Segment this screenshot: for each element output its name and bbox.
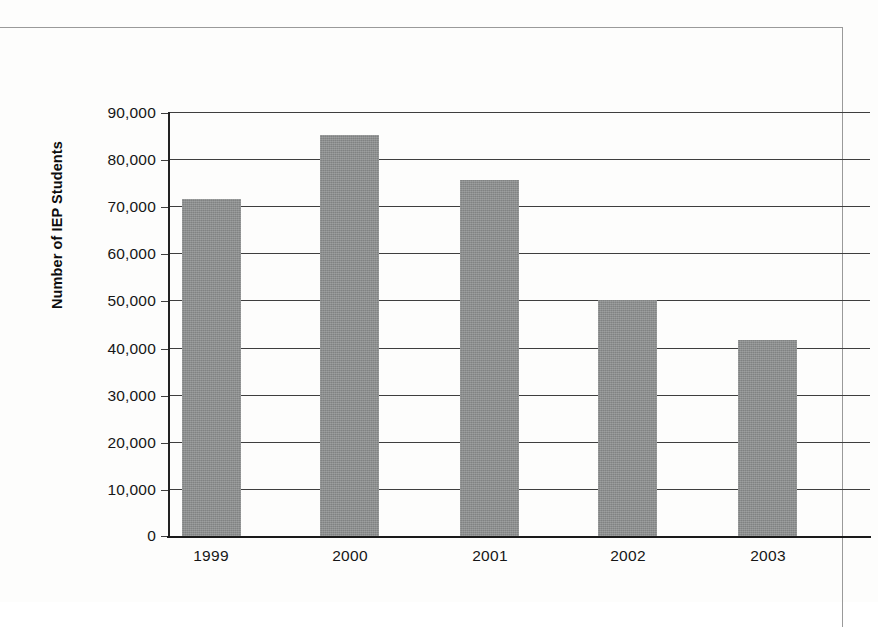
gridline-90000: 90,000 bbox=[168, 112, 870, 113]
bar-2001 bbox=[460, 180, 519, 536]
tick-mark-40000 bbox=[161, 349, 168, 350]
bar-1999 bbox=[182, 199, 241, 536]
y-tick-label-20000: 20,000 bbox=[107, 434, 156, 452]
gridline-60000: 60,000 bbox=[168, 253, 870, 254]
y-tick-label-90000: 90,000 bbox=[107, 104, 156, 122]
x-axis-line bbox=[167, 536, 871, 538]
plot-area: 90,000 80,000 70,000 60,000 50,000 40,00… bbox=[168, 112, 870, 536]
bar-2002 bbox=[598, 300, 657, 536]
y-tick-label-30000: 30,000 bbox=[107, 387, 156, 405]
tick-mark-20000 bbox=[161, 443, 168, 444]
x-tick-label-1999: 1999 bbox=[193, 547, 229, 565]
y-axis-line bbox=[168, 112, 170, 537]
gridline-80000: 80,000 bbox=[168, 159, 870, 160]
tick-mark-90000 bbox=[161, 113, 168, 114]
bar-2003 bbox=[738, 340, 797, 536]
y-tick-label-50000: 50,000 bbox=[107, 292, 156, 310]
tick-mark-30000 bbox=[161, 396, 168, 397]
gridline-50000: 50,000 bbox=[168, 300, 870, 301]
gridline-70000: 70,000 bbox=[168, 206, 870, 207]
tick-mark-10000 bbox=[161, 490, 168, 491]
x-tick-label-2001: 2001 bbox=[472, 547, 508, 565]
y-tick-label-10000: 10,000 bbox=[107, 481, 156, 499]
tick-mark-70000 bbox=[161, 207, 168, 208]
y-tick-label-70000: 70,000 bbox=[107, 198, 156, 216]
x-tick-label-2003: 2003 bbox=[750, 547, 786, 565]
y-tick-label-0: 0 bbox=[147, 527, 156, 545]
bar-chart: Number of IEP Students 90,000 80,000 70,… bbox=[40, 16, 878, 618]
tick-mark-60000 bbox=[161, 254, 168, 255]
x-tick-label-2000: 2000 bbox=[332, 547, 368, 565]
tick-mark-80000 bbox=[161, 160, 168, 161]
tick-mark-50000 bbox=[161, 301, 168, 302]
y-tick-label-60000: 60,000 bbox=[107, 245, 156, 263]
y-tick-label-80000: 80,000 bbox=[107, 151, 156, 169]
x-tick-label-2002: 2002 bbox=[610, 547, 646, 565]
bar-2000 bbox=[320, 135, 379, 536]
y-axis-title: Number of IEP Students bbox=[49, 141, 65, 309]
y-tick-label-40000: 40,000 bbox=[107, 340, 156, 358]
